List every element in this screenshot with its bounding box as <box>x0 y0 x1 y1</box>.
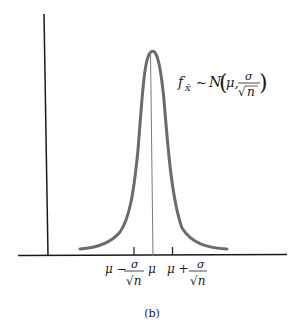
mean-line <box>151 52 154 256</box>
mu-plus-prefix: μ + <box>167 262 189 276</box>
y-axis <box>44 14 48 256</box>
right-paren: ) <box>259 70 268 95</box>
tick-label-mu: μ <box>148 262 156 276</box>
tick-label-mu-plus: μ + σ √n <box>167 258 207 288</box>
xbar-subscript: X̄ <box>184 84 191 93</box>
distribution-label: f X̄ ~ N ( μ, σ √ n ) <box>177 70 268 99</box>
mu-arg: μ, <box>226 75 239 90</box>
sigma-numerator: σ <box>245 70 253 83</box>
n-denominator: n <box>247 85 255 99</box>
tick-label-mu-minus: μ − σ √n <box>105 258 144 288</box>
mu-plus-sigma: σ <box>197 258 205 271</box>
mu-minus-sigma: σ <box>131 258 139 271</box>
mu-plus-root-n: √n <box>190 274 205 288</box>
normal-distribution-diagram: f X̄ ~ N ( μ, σ √ n ) μ − σ √n μ μ + σ √… <box>0 0 303 322</box>
mu-minus-root-n: √n <box>126 274 141 288</box>
mu-minus-prefix: μ − <box>105 262 127 276</box>
tilde-symbol: ~ <box>196 75 207 90</box>
sqrt-symbol: √ <box>238 85 246 99</box>
figure-caption: (b) <box>144 307 160 320</box>
